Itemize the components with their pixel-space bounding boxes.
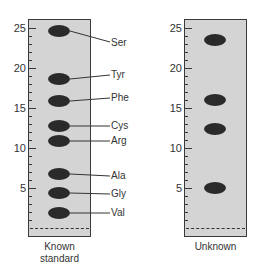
axis-label-15-right: 15 — [164, 103, 182, 114]
label-phe: Phe — [111, 93, 129, 103]
label-cys: Cys — [111, 121, 128, 131]
tick-5-right — [184, 188, 192, 189]
axis-label-10-right: 10 — [164, 143, 182, 154]
unknown-spot-4 — [204, 182, 226, 194]
tick-20-right — [184, 68, 192, 69]
origin-line-unknown — [186, 228, 245, 229]
label-tyr: Tyr — [111, 70, 125, 80]
tick-15-right — [184, 108, 192, 109]
caption-unknown: Unknown — [184, 241, 247, 253]
label-arg: Arg — [111, 136, 127, 146]
label-gly: Gly — [111, 189, 126, 199]
axis-label-25-right: 25 — [164, 23, 182, 34]
label-ser: Ser — [111, 38, 127, 48]
axis-label-20-right: 20 — [164, 63, 182, 74]
tick-10-right — [184, 148, 192, 149]
label-val: Val — [111, 208, 125, 218]
unknown-spot-1 — [204, 34, 226, 46]
caption-known: Known standard — [28, 241, 91, 265]
tick-25-right — [184, 28, 192, 29]
unknown-spot-2 — [204, 94, 226, 106]
caption-known-line2: standard — [28, 253, 91, 265]
label-ala: Ala — [111, 171, 125, 181]
unknown-spot-3 — [204, 123, 226, 135]
caption-known-line1: Known — [28, 241, 91, 253]
axis-label-5-right: 5 — [164, 183, 182, 194]
